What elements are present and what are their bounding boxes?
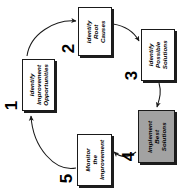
- step-5-label-line1: Monitor: [84, 140, 91, 180]
- step-number-4: 4: [120, 152, 137, 161]
- step-4-label-line2: Best: [153, 121, 160, 153]
- step-box-1[interactable]: Identify Improvement Opportunities: [22, 59, 55, 111]
- step-2-label-line2: Root: [91, 20, 98, 43]
- step-box-5[interactable]: Monitor the Improvement: [77, 134, 112, 186]
- step-number-1: 1: [3, 101, 20, 110]
- step-2-label-line1: Identify: [84, 20, 91, 43]
- step-box-3[interactable]: Identify Possible Solutions: [141, 29, 175, 81]
- connector-2-to-3: [113, 24, 139, 41]
- step-number-3: 3: [123, 71, 140, 80]
- step-5-label-line3: Improvement: [98, 140, 105, 180]
- step-1-label-line1: Identify: [28, 64, 35, 106]
- step-2-label-line3: Causes: [99, 20, 106, 43]
- step-5-label-line2: the: [91, 140, 98, 180]
- step-4-label-line1: Implement: [146, 121, 153, 153]
- step-5-label: Monitor the Improvement: [84, 140, 106, 180]
- connector-5-to-1: [31, 116, 76, 168]
- step-number-5: 5: [58, 174, 75, 183]
- step-4-label: Implement Best Solutions: [146, 121, 168, 153]
- improvement-cycle-diagram: Identify Improvement Opportunities 1 Ide…: [0, 0, 182, 196]
- step-1-label: Identify Improvement Opportunities: [28, 64, 50, 106]
- step-3-label-line3: Solutions: [162, 40, 169, 69]
- step-number-2: 2: [60, 44, 77, 53]
- step-box-4[interactable]: Implement Best Solutions: [138, 110, 175, 163]
- step-3-label: Identify Possible Solutions: [147, 40, 169, 69]
- step-4-label-line3: Solutions: [160, 121, 167, 153]
- step-2-label: Identify Root Causes: [84, 20, 106, 43]
- step-1-label-line3: Opportunities: [42, 64, 49, 106]
- step-1-label-line2: Improvement: [35, 64, 42, 106]
- step-box-2[interactable]: Identify Root Causes: [78, 7, 112, 56]
- connector-3-to-4: [157, 83, 160, 107]
